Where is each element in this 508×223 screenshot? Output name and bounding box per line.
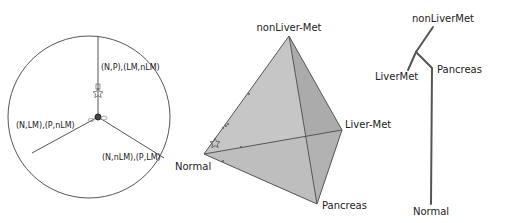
- branch-nonlivermet: [416, 27, 433, 52]
- vertex-label-right: Liver-Met: [345, 119, 391, 130]
- split-label-top: (N,P),(LM,nLM): [101, 63, 160, 72]
- split-line-right: [98, 117, 164, 158]
- split-label-left: (N,LM),(P,nLM): [16, 121, 75, 130]
- data-point: [248, 93, 250, 95]
- tetrahedron: nonLiver-Met Liver-Met Pancreas Normal: [175, 22, 391, 211]
- data-point: [227, 123, 229, 125]
- point-cluster: [101, 116, 107, 120]
- split-label-right: (N,nLM),(P,LM): [102, 153, 161, 162]
- vertex-label-left: Normal: [175, 161, 211, 172]
- data-point: [240, 146, 242, 148]
- data-point: [222, 127, 224, 129]
- branch-pancreas-normal: [416, 52, 432, 204]
- figure: (N,P),(LM,nLM) (N,LM),(P,nLM) (N,nLM),(P…: [0, 0, 508, 223]
- data-point: [222, 160, 224, 162]
- leaf-label-bottom: Normal: [413, 206, 449, 217]
- tree: [408, 27, 433, 204]
- data-point: [225, 125, 227, 127]
- split-network-circle: (N,P),(LM,nLM) (N,LM),(P,nLM) (N,nLM),(P…: [8, 36, 170, 198]
- outer-circle: [8, 36, 170, 198]
- leaf-label-left: LiverMet: [375, 71, 418, 82]
- vertex-label-bottom: Pancreas: [322, 200, 367, 211]
- leaf-label-right: Pancreas: [437, 64, 482, 75]
- vertex-label-top: nonLiver-Met: [257, 22, 322, 33]
- leaf-label-top: nonLiverMet: [412, 13, 474, 24]
- center-node: [95, 114, 101, 120]
- branch-livermet: [408, 52, 416, 70]
